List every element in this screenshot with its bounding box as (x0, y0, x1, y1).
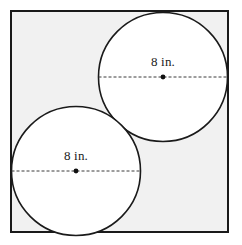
top-right-center-dot (161, 75, 166, 80)
bottom-left-circle-dimension-label: 8 in. (64, 149, 88, 162)
geometry-figure: 8 in. 8 in. (0, 0, 242, 245)
bottom-left-circle-group (12, 107, 141, 236)
figure-canvas (0, 0, 242, 245)
top-right-circle-dimension-label: 8 in. (151, 55, 175, 68)
bottom-left-center-dot (74, 169, 79, 174)
